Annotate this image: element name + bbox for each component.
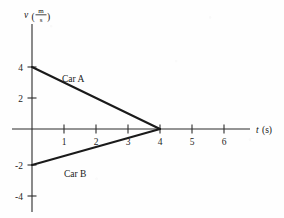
x-tick-label-5: 5 [190, 137, 195, 147]
x-axis-title: t (s) [256, 125, 272, 136]
y-tick-label-4: 4 [18, 63, 23, 73]
y-axis-title: v ( m s ) [24, 7, 50, 24]
y-axis-title-paren-close: ) [47, 12, 50, 23]
series-label-car-a: Car A [62, 74, 85, 84]
velocity-time-graph-figure: 1 2 3 4 5 6 4 2 -2 -4 Car A Car B t (s) … [0, 0, 284, 218]
y-axis-unit-denominator: s [40, 16, 43, 24]
series-line-car-a [32, 67, 160, 129]
x-tick-label-6: 6 [222, 137, 227, 147]
series-label-car-b: Car B [64, 169, 86, 179]
x-axis-title-unit: (s) [262, 125, 272, 136]
plot-canvas: 1 2 3 4 5 6 4 2 -2 -4 Car A Car B t (s) … [0, 0, 284, 218]
series-line-car-b [32, 129, 160, 165]
y-axis-title-variable: v [24, 10, 29, 20]
y-axis-unit-numerator: m [38, 7, 44, 15]
x-axis-title-variable: t [256, 125, 259, 135]
y-tick-label-neg2: -2 [15, 161, 23, 171]
x-tick-label-1: 1 [62, 137, 67, 147]
x-tick-label-4: 4 [158, 137, 163, 147]
y-axis-title-paren-open: ( [32, 12, 35, 23]
y-tick-label-2: 2 [18, 94, 23, 104]
y-tick-label-neg4: -4 [15, 192, 23, 202]
